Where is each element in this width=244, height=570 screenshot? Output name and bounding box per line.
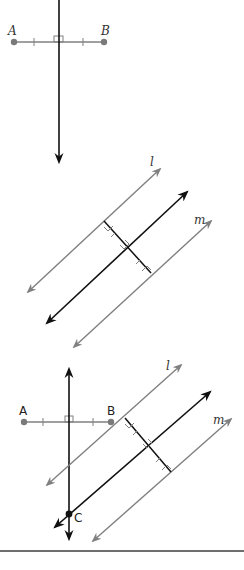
geometry-figure: A B l m A B l m [0, 0, 244, 570]
tick-mark-lower [156, 458, 160, 462]
panel-3: A B l m C [19, 359, 231, 541]
perpendicular-segment [104, 221, 151, 273]
point-a [11, 39, 17, 45]
point-a [21, 419, 27, 425]
panel-1: A B [7, 0, 110, 162]
tick-mark-upper [111, 233, 115, 237]
perpendicular-segment [125, 418, 171, 472]
label-m: m [194, 213, 205, 227]
label-b: B [107, 404, 115, 418]
tick-mark-lower [136, 260, 140, 264]
line-m [74, 221, 211, 347]
point-b [101, 39, 107, 45]
label-a: A [7, 24, 17, 38]
label-m: m [213, 413, 224, 427]
midline [47, 192, 187, 323]
point-b [108, 419, 114, 425]
line-m [93, 419, 231, 541]
label-b: B [100, 24, 110, 38]
label-c: C [74, 511, 82, 525]
panel-2: l m [28, 155, 211, 347]
point-c [66, 511, 73, 518]
label-a: A [19, 404, 28, 418]
line-l [28, 169, 160, 292]
tick-mark-upper [133, 431, 137, 435]
line-l [47, 365, 181, 485]
label-l: l [166, 359, 170, 373]
label-l: l [150, 155, 154, 169]
